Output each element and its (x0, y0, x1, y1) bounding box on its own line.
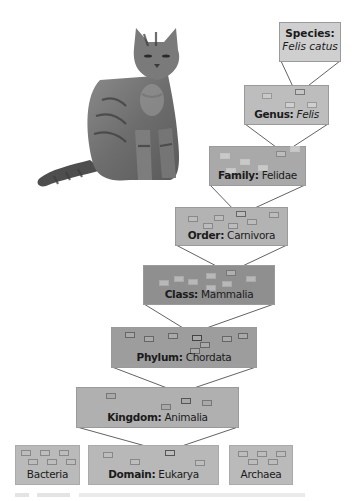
taxon-marker (21, 450, 31, 456)
domain-rank-label: Domain: (108, 468, 155, 480)
taxon-marker (247, 219, 257, 225)
archaea-label: Archaea (241, 468, 282, 480)
archaea-box: Archaea (229, 445, 293, 485)
family-name-label: Felidae (262, 169, 297, 181)
taxon-marker (248, 459, 258, 465)
class-box: Class: Mammalia (143, 265, 275, 305)
taxon-marker (206, 273, 216, 279)
bacteria-box: Bacteria (15, 445, 80, 485)
taxon-marker (192, 335, 202, 341)
order-name-label: Carnivora (227, 229, 275, 241)
family-box: Family: Felidae (209, 146, 306, 186)
taxon-marker (214, 215, 224, 221)
figure-caption (15, 493, 305, 497)
taxon-marker (276, 451, 286, 457)
order-rank-label: Order: (188, 229, 224, 241)
taxon-marker (200, 342, 210, 348)
taxon-marker (290, 146, 300, 152)
taxon-marker (188, 279, 198, 285)
family-rank-label: Family: (218, 169, 259, 181)
taxon-marker (268, 459, 278, 465)
class-rank-label: Class: (165, 288, 198, 300)
domain-box: Domain: Eukarya (88, 445, 219, 485)
kingdom-box: Kingdom: Animalia (76, 387, 239, 428)
taxon-marker (159, 280, 169, 286)
taxon-marker (236, 211, 246, 217)
taxon-marker (188, 216, 198, 222)
bacteria-label: Bacteria (27, 468, 68, 480)
domain-name-label: Eukarya (158, 468, 199, 480)
taxon-marker (220, 153, 230, 159)
taxon-marker (262, 93, 272, 99)
phylum-rank-label: Phylum: (137, 351, 183, 363)
taxon-marker (222, 281, 232, 287)
cat-photo (30, 20, 210, 190)
taxon-marker (103, 452, 113, 458)
species-name-label: Felis catus (280, 40, 340, 53)
taxon-marker (47, 459, 57, 465)
taxon-marker (125, 332, 135, 338)
taxon-marker (165, 450, 175, 456)
taxon-marker (226, 270, 236, 276)
kingdom-name-label: Animalia (164, 411, 207, 423)
taxon-marker (174, 276, 184, 282)
genus-rank-label: Genus: (254, 108, 293, 120)
taxon-marker (181, 398, 191, 404)
taxon-marker (66, 459, 76, 465)
taxon-marker (295, 89, 305, 95)
taxon-marker (40, 450, 50, 456)
phylum-box: Phylum: Chordata (111, 327, 257, 368)
taxon-marker (161, 404, 171, 410)
kingdom-rank-label: Kingdom: (107, 411, 161, 423)
taxon-marker (246, 276, 256, 282)
taxon-marker (144, 336, 154, 342)
order-box: Order: Carnivora (175, 207, 288, 246)
genus-box: Genus: Felis (244, 85, 329, 125)
taxon-marker (168, 333, 178, 339)
taxon-marker (106, 393, 116, 399)
taxon-marker (240, 159, 250, 165)
taxon-marker (130, 459, 140, 465)
taxon-marker (276, 151, 286, 157)
taxon-marker (257, 451, 267, 457)
taxon-marker (202, 400, 212, 406)
taxon-marker (222, 336, 232, 342)
taxon-marker (238, 451, 248, 457)
class-name-label: Mammalia (201, 288, 253, 300)
species-rank-label: Species: (280, 27, 340, 40)
taxon-marker (269, 212, 279, 218)
phylum-name-label: Chordata (186, 351, 232, 363)
taxon-marker (28, 459, 38, 465)
taxon-marker (238, 333, 248, 339)
genus-name-label: Felis (297, 108, 319, 120)
taxon-marker (59, 450, 69, 456)
species-box: Species: Felis catus (279, 22, 341, 62)
taxon-marker (195, 460, 205, 466)
